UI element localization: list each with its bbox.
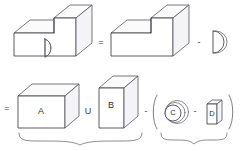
- slab-d-right-side-face: [217, 100, 222, 124]
- step-block-solid: [111, 5, 189, 56]
- d-cylinder-front-face: [213, 31, 224, 53]
- csg-diagram: = - =: [0, 0, 242, 151]
- cylinder-c-label: C: [170, 108, 176, 117]
- equals-operator-row1: =: [98, 37, 103, 47]
- row-1-group: = -: [14, 5, 227, 57]
- union-operator: U: [85, 106, 92, 116]
- brace-difference-cd: [161, 133, 227, 144]
- box-a-label: A: [38, 106, 44, 116]
- slab-d-solid: D: [207, 100, 222, 124]
- right-parenthesis: [229, 95, 233, 129]
- underbraces-group: [19, 133, 227, 145]
- brace-union-ab: [19, 133, 142, 145]
- csg-diagram-canvas: = - =: [0, 0, 242, 151]
- cylinder-c-solid: C: [165, 101, 189, 124]
- minus-operator-row1: -: [198, 37, 201, 47]
- minus-operator-row2-outer: -: [145, 106, 148, 116]
- equals-operator-row2: =: [4, 103, 9, 113]
- left-parenthesis: [153, 95, 157, 129]
- box-b-label: B: [108, 100, 114, 110]
- minus-operator-row2-inner: -: [194, 106, 197, 116]
- d-cylinder-solid: [213, 31, 227, 53]
- row-2-group: = A U B -: [4, 76, 232, 129]
- result-solid-stepped-block-with-d-hole: [14, 5, 92, 57]
- slab-d-label: D: [209, 109, 215, 118]
- box-b-solid: B: [99, 76, 138, 128]
- box-a-solid: A: [18, 84, 79, 128]
